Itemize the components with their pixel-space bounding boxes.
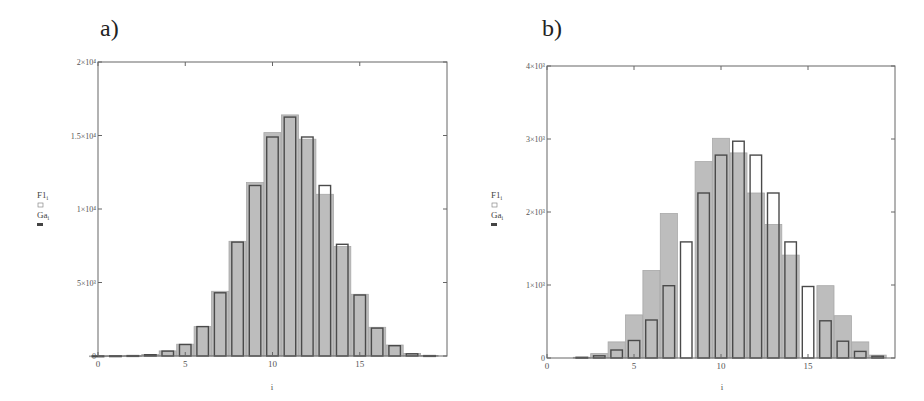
x-tick-label: 0	[545, 361, 550, 371]
x-tick-label: 10	[717, 361, 727, 371]
panel-b-label: b)	[542, 15, 562, 41]
panel-a-legend-ga-swatch	[37, 223, 43, 226]
y-tick-label: 2×10⁴	[77, 58, 97, 67]
y-tick-label: 3×10³	[526, 135, 546, 144]
f1-bar	[802, 287, 814, 359]
x-tick-label: 5	[632, 361, 637, 371]
panel-a-legend-f1-label: F1i	[37, 190, 49, 201]
panel-b-x-axis-title: i	[721, 382, 724, 392]
y-tick-label: 1×10³	[526, 281, 546, 290]
x-tick-label: 10	[268, 359, 278, 369]
panel-a-label: a)	[100, 15, 119, 41]
panel-b-legend: F1i Gai	[491, 190, 504, 226]
y-tick-label: 2×10³	[526, 208, 546, 217]
x-tick-label: 5	[183, 359, 188, 369]
panel-a-legend: F1i Gai	[37, 190, 50, 226]
y-tick-label: 4×10³	[526, 62, 546, 71]
panel-a-legend-ga-label: Gai	[37, 210, 50, 221]
panel-b-legend-f1-label: F1i	[491, 190, 503, 201]
panel-a-x-axis-title: i	[271, 382, 274, 392]
y-tick-label: 5×10³	[77, 279, 97, 288]
y-tick-label: 1×10⁴	[77, 205, 97, 214]
x-tick-label: 15	[355, 359, 365, 369]
panel-a: a) 05×10³1×10⁴1.5×10⁴2×10⁴ 051015 i F1i …	[37, 15, 447, 392]
panel-b: b) 01×10³2×10³3×10³4×10³ 051015 i F1i Ga…	[491, 15, 895, 392]
panel-a-ga-bars	[89, 115, 438, 357]
figure-canvas: a) 05×10³1×10⁴1.5×10⁴2×10⁴ 051015 i F1i …	[0, 0, 924, 401]
x-tick-label: 0	[96, 359, 101, 369]
f1-bar	[681, 242, 693, 358]
panel-a-legend-f1-swatch	[38, 203, 43, 207]
panel-b-legend-f1-swatch	[492, 203, 497, 207]
panel-b-legend-ga-label: Gai	[491, 210, 504, 221]
panel-b-legend-ga-swatch	[491, 223, 497, 226]
panel-b-ga-bars	[573, 138, 886, 358]
y-tick-label: 1.5×10⁴	[71, 132, 97, 141]
x-tick-label: 15	[804, 361, 814, 371]
